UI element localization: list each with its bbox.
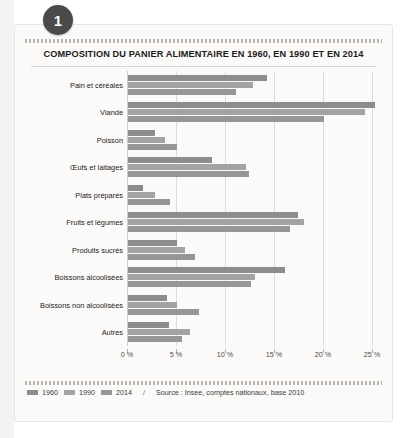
bar [128,219,304,225]
bar [128,322,169,328]
tick-label-15: 15 % [266,350,282,359]
bar [128,116,324,122]
bar [128,157,212,163]
tick-label-0: 0 % [121,350,133,359]
chart-card: COMPOSITION DU PANIER ALIMENTAIRE EN 196… [14,24,393,422]
top-dotted-rule [25,39,382,43]
bar [128,144,177,150]
bar [128,226,290,232]
category-label: Produits sucrés [72,245,123,254]
chart-bars-region [127,71,372,346]
bar [128,309,199,315]
bar [128,102,375,108]
legend-label: 1960 [42,388,58,397]
bar [128,89,236,95]
bar [128,109,365,115]
bar [128,247,185,253]
category-label: Poisson [97,135,123,144]
legend-separator: / [143,388,145,397]
category-label: Œufs et laitages [70,163,123,172]
bar [128,336,182,342]
bar [128,274,255,280]
bottom-dotted-rule [25,381,382,385]
bar [128,295,167,301]
category-label: Boissons alcoolisées [54,273,123,282]
bar [128,302,177,308]
bar [128,137,165,143]
legend-swatch [27,390,38,395]
title-divider [31,66,376,67]
bar [128,185,143,191]
category-label: Pain et céréales [70,80,123,89]
bar [128,254,195,260]
category-label: Autres [102,328,123,337]
legend-swatch [101,390,112,395]
bar [128,281,251,287]
bar [128,240,177,246]
category-label: Plats préparés [75,190,123,199]
bar [128,164,246,170]
legend-item: 1990 [64,388,95,397]
category-label: Boissons non alcoolisées [40,300,123,309]
page-title: COMPOSITION DU PANIER ALIMENTAIRE EN 196… [25,49,382,59]
bar [128,192,155,198]
chart-legend: 196019902014 / Source : Insee, comptes n… [27,388,304,397]
bar [128,75,267,81]
bar [128,267,285,273]
category-label: Fruits et légumes [66,218,123,227]
figure-number-badge: 1 [43,5,73,35]
bar [128,212,298,218]
chart-source: Source : Insee, comptes nationaux, base … [156,388,304,397]
legend-item: 2014 [101,388,132,397]
tick-label-5: 5 % [170,350,182,359]
bar [128,130,155,136]
legend-label: 2014 [116,388,132,397]
legend-swatch [64,390,75,395]
bar [128,199,170,205]
category-label: Viande [100,108,123,117]
chart-plot-area: Pain et céréalesViandePoissonŒufs et lai… [15,71,394,371]
gridline-25 [372,71,373,346]
bar [128,82,253,88]
legend-label: 1990 [79,388,95,397]
bar [128,329,190,335]
tick-label-25: 25 % [364,350,380,359]
bar [128,171,249,177]
tick-label-10: 10 % [217,350,233,359]
tick-label-20: 20 % [315,350,331,359]
page-left-margin [0,0,14,438]
legend-item: 1960 [27,388,58,397]
